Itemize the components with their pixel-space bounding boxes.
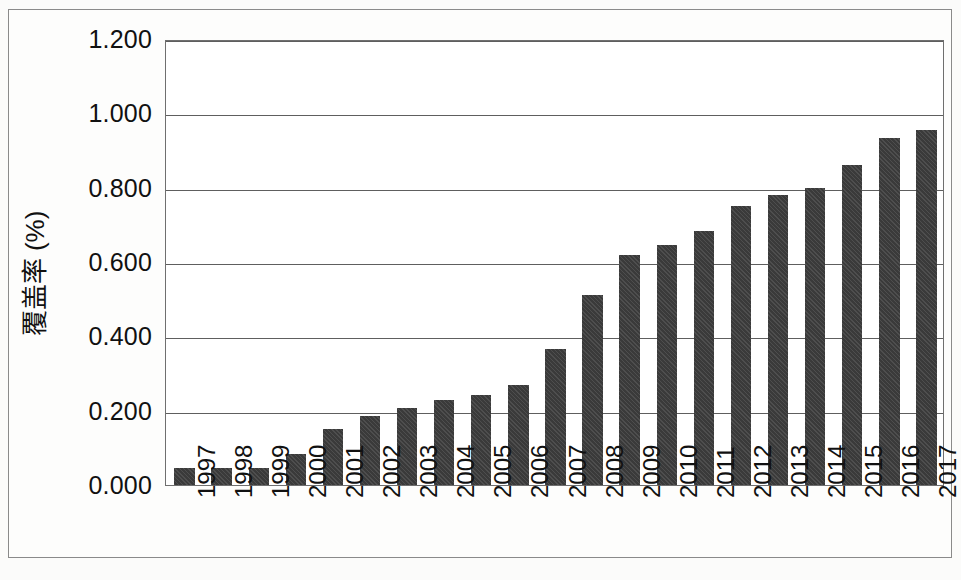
x-axis-tick-label: 2011 [712,418,740,498]
x-axis-tick-label: 2008 [601,418,629,498]
x-axis-tick-label: 2016 [897,418,925,498]
x-axis-tick-label: 2013 [786,418,814,498]
x-axis-tick-label: 2004 [452,418,480,498]
x-axis-tick-label: 2002 [378,418,406,498]
x-axis-tick-label: 2006 [526,418,554,498]
bar [174,468,194,485]
y-axis-tick-label: 1.000 [2,101,152,126]
x-axis-tick-label: 2000 [304,418,332,498]
x-axis-tick-label: 2007 [564,418,592,498]
chart-figure: 0.0000.2000.4000.6000.8001.0001.200 覆盖率 … [0,0,961,580]
x-axis-tick-label: 1998 [230,418,258,498]
x-axis-tick-label: 2005 [489,418,517,498]
x-axis-tick-label: 2010 [675,418,703,498]
x-axis-tick-label: 2001 [341,418,369,498]
y-axis-title: 覆盖率 (%) [14,154,51,394]
x-axis-tick-label: 2015 [860,418,888,498]
x-axis-tick-label: 2017 [934,418,961,498]
x-axis-tick-label: 2009 [638,418,666,498]
x-axis-tick-label: 1999 [267,418,295,498]
x-axis-tick-label: 2014 [823,418,851,498]
x-axis-tick-label: 2012 [749,418,777,498]
y-axis-tick-label: 0.200 [2,399,152,424]
x-axis-ticks: 1997199819992000200120022003200420052006… [165,486,944,580]
y-axis-tick-label: 1.200 [2,27,152,52]
x-axis-tick-label: 1997 [193,418,221,498]
y-axis-tick-label: 0.000 [2,473,152,498]
x-axis-tick-label: 2003 [415,418,443,498]
